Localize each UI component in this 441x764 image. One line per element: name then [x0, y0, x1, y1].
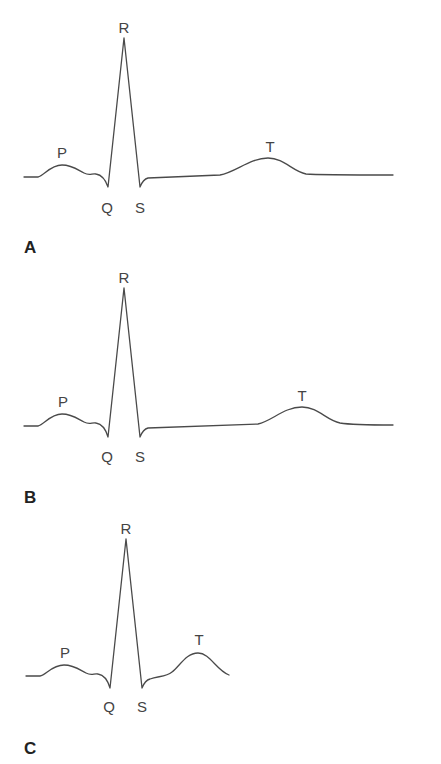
p-wave-label: P [60, 644, 70, 661]
ecg-panel-c: P R Q S T C [24, 520, 229, 758]
q-wave-label: Q [103, 698, 115, 715]
panel-label-c: C [24, 739, 36, 758]
s-wave-label: S [135, 448, 145, 465]
ecg-panel-b: P R Q S T B [24, 269, 393, 507]
p-wave-label: P [57, 144, 67, 161]
s-wave-label: S [135, 199, 145, 216]
panel-label-b: B [24, 488, 36, 507]
t-wave-label: T [194, 631, 203, 648]
ecg-trace-b [24, 288, 393, 437]
ecg-panel-a: P R Q S T A [24, 19, 393, 257]
q-wave-label: Q [101, 199, 113, 216]
ecg-trace-c [26, 539, 229, 688]
r-wave-label: R [119, 19, 130, 36]
t-wave-label: T [265, 138, 274, 155]
r-wave-label: R [121, 520, 132, 537]
ecg-trace-a [24, 38, 393, 187]
ecg-figure: P R Q S T A P R Q S T B P R Q S T C [0, 0, 441, 764]
r-wave-label: R [119, 269, 130, 286]
p-wave-label: P [58, 393, 68, 410]
panel-label-a: A [24, 238, 36, 257]
q-wave-label: Q [101, 448, 113, 465]
s-wave-label: S [137, 698, 147, 715]
t-wave-label: T [297, 387, 306, 404]
